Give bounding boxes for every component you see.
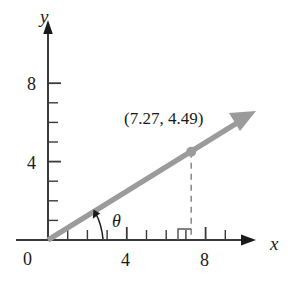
x-axis-label: x: [270, 234, 278, 253]
plotted-point-marker: [186, 147, 196, 157]
angle-theta-label: θ: [112, 212, 121, 230]
y-axis-ticks: [48, 83, 61, 220]
x-axis-arrowhead: [241, 235, 256, 246]
x-tick-label-4: 4: [121, 251, 130, 269]
x-axis-ticks: [68, 227, 226, 240]
terminal-ray-line: [48, 123, 237, 240]
x-tick-label-8: 8: [200, 251, 209, 269]
y-tick-label-4: 4: [27, 154, 36, 172]
y-tick-label-8: 8: [27, 75, 36, 93]
origin-label: 0: [23, 250, 32, 268]
terminal-ray: [48, 111, 256, 240]
angle-arc: [93, 210, 103, 240]
right-angle-marker: [178, 229, 191, 240]
angle-arc-path: [96, 214, 103, 239]
y-axis-label: y: [40, 7, 48, 26]
y-axis: [43, 20, 61, 240]
coordinate-plane-figure: y x 0 4 8 4 8 (7.27, 4.49) θ: [0, 0, 298, 305]
point-coordinate-label: (7.27, 4.49): [124, 110, 203, 127]
figure-canvas: [0, 0, 298, 305]
